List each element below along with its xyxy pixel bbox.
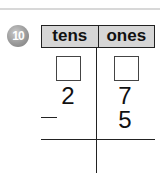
answer-line <box>41 139 155 140</box>
tens-header: tens <box>42 26 99 47</box>
ones-regroup-box[interactable] <box>114 56 139 81</box>
minuend-ones-digit: 7 <box>110 84 140 108</box>
top-divider <box>0 8 160 10</box>
minuend-tens-digit: 2 <box>53 84 83 108</box>
subtrahend-ones-digit: 5 <box>110 108 140 132</box>
problem-number-badge: 10 <box>7 25 29 47</box>
tens-regroup-box[interactable] <box>56 56 81 81</box>
minus-sign <box>41 117 57 118</box>
place-value-header: tens ones <box>41 25 155 48</box>
ones-header: ones <box>99 26 155 47</box>
column-divider <box>96 47 97 173</box>
